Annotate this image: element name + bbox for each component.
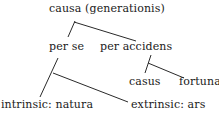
node-causa-generationis: causa (generationis) xyxy=(49,3,165,15)
node-fortuna: fortuna xyxy=(179,76,219,88)
edge-root-per-se xyxy=(68,21,75,37)
node-intrinsic-natura: intrinsic: natura xyxy=(1,99,93,111)
node-per-accidens: per accidens xyxy=(100,41,172,53)
edge-root-per-accidens xyxy=(74,22,136,41)
node-casus: casus xyxy=(129,76,161,88)
node-extrinsic-ars: extrinsic: ars xyxy=(131,99,205,111)
node-per-se: per se xyxy=(49,41,84,53)
edge-per-se-intrinsic xyxy=(40,58,58,97)
cause-tree-diagram: causa (generationis) per se per accidens… xyxy=(0,0,219,117)
